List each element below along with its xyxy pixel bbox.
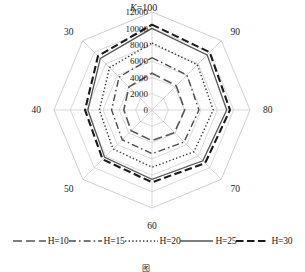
radial-tick-10000: 10000 (126, 24, 149, 34)
axis-label-50: 50 (64, 184, 74, 194)
legend-swatch-icon (69, 236, 102, 246)
axis-label-80: 80 (263, 105, 273, 115)
legend-item-h-30[interactable]: H=30 (236, 236, 292, 246)
radial-tick-8000: 8000 (130, 40, 149, 50)
legend-label: H=15 (104, 236, 125, 246)
axis-label-70: 70 (230, 184, 240, 194)
caption-number: 图 (142, 264, 150, 272)
axis-label-40: 40 (32, 105, 42, 115)
legend-swatch-icon (180, 236, 213, 246)
legend-swatch-icon (125, 236, 158, 246)
legend-swatch-icon (236, 236, 269, 246)
radial-tick-0: 0 (144, 105, 149, 115)
radial-tick-4000: 4000 (130, 73, 149, 83)
figure-caption: 图 (0, 262, 305, 272)
series-polygon-h-10 (124, 73, 185, 140)
axis-label-60: 60 (147, 221, 157, 231)
legend-item-h-15[interactable]: H=15 (69, 236, 125, 246)
legend-swatch-icon (13, 236, 46, 246)
grid-spoke (83, 110, 152, 179)
legend-item-h-25[interactable]: H=25 (180, 236, 236, 246)
radial-tick-12000: 12000 (126, 7, 149, 17)
legend-item-h-10[interactable]: H=10 (13, 236, 69, 246)
legend-label: H=30 (271, 236, 292, 246)
radar-svg: 9080706050403002000400060008000100001200… (0, 0, 305, 228)
legend-item-h-20[interactable]: H=20 (125, 236, 181, 246)
legend-label: H=25 (215, 236, 236, 246)
chart-plot-area: K=100 9080706050403002000400060008000100… (0, 0, 305, 228)
radial-tick-2000: 2000 (130, 89, 149, 99)
series-polygon-h-20 (99, 43, 213, 167)
figure-radar-chart: K=100 9080706050403002000400060008000100… (0, 0, 305, 272)
axis-label-90: 90 (230, 27, 240, 37)
grid-spoke (152, 41, 221, 110)
radial-tick-6000: 6000 (130, 56, 149, 66)
axis-label-30: 30 (64, 27, 74, 37)
legend-label: H=10 (48, 236, 69, 246)
legend-label: H=20 (160, 236, 181, 246)
chart-legend: H=10H=15H=20H=25H=30 (0, 231, 305, 251)
